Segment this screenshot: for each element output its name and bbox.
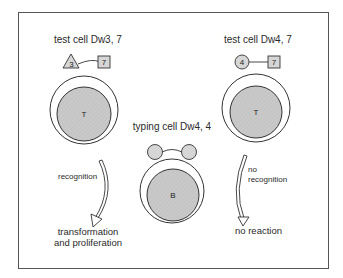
left-cell-title: test cell Dw3, 7 — [54, 34, 122, 45]
no-reaction-label: no reaction — [235, 225, 282, 236]
center-receptor-link — [162, 150, 182, 153]
outcome-line-1: transformation — [58, 226, 119, 237]
center-typing-cell: typing cell Dw4, 4 B — [133, 121, 212, 223]
right-square-label: 7 — [272, 58, 277, 67]
right-circle-label: 4 — [240, 58, 245, 67]
no-recognition-label-line-1: no — [248, 165, 257, 174]
receptor-circle-right-icon — [182, 145, 197, 160]
center-cell-title: typing cell Dw4, 4 — [133, 121, 212, 132]
right-nucleus-label: T — [254, 108, 259, 117]
recognition-label: recognition — [58, 172, 97, 181]
left-receptor-link — [78, 60, 100, 64]
outcome-line-2: and proliferation — [54, 237, 122, 248]
left-triangle-label: 3 — [69, 60, 74, 69]
diagram-canvas: test cell Dw3, 7 T 3 7 test cell Dw4, 7 … — [0, 0, 343, 278]
center-nucleus-label: B — [170, 191, 175, 200]
recognition-arrow: recognition — [58, 160, 108, 227]
right-cell-title: test cell Dw4, 7 — [224, 34, 292, 45]
curved-arrow-shaft — [95, 160, 108, 218]
curved-arrow-shaft — [236, 155, 247, 219]
left-nucleus-label: T — [82, 110, 87, 119]
left-test-cell: test cell Dw3, 7 T 3 7 — [50, 34, 122, 144]
receptor-circle-left-icon — [148, 145, 163, 160]
no-recognition-arrow: no recognition — [236, 155, 287, 226]
no-recognition-label-line-2: recognition — [248, 175, 287, 184]
right-test-cell: test cell Dw4, 7 T 4 7 — [222, 34, 292, 142]
left-square-label: 7 — [102, 58, 107, 67]
